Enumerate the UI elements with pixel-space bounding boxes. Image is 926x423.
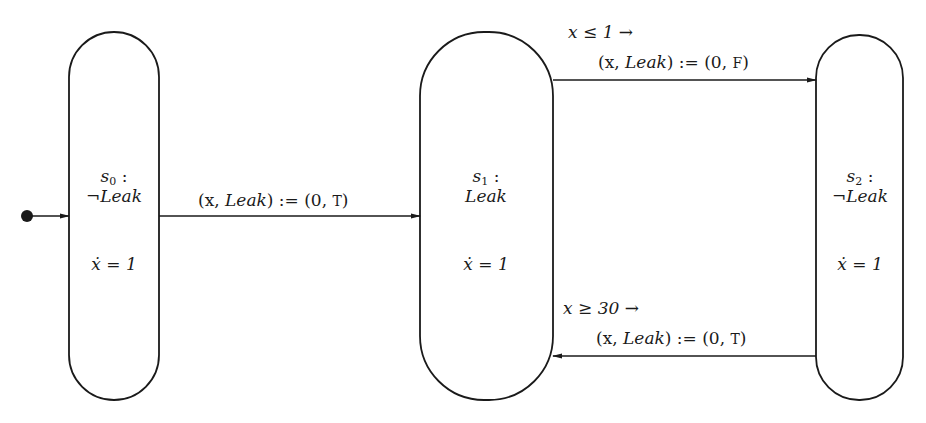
negation-symbol: ¬: [832, 186, 846, 206]
assign-lhs: (x,: [198, 190, 225, 210]
assign-close: ): [742, 52, 749, 72]
assign-var: Leak: [625, 52, 667, 72]
assign-close: ): [342, 190, 349, 210]
transition-s2-s1-guard: x ≥ 30 →: [563, 298, 639, 318]
assign-close: ): [740, 328, 747, 348]
state-name-letter: s: [473, 166, 482, 186]
assign-op: ) := (0,: [667, 52, 733, 72]
state-name-letter: s: [847, 166, 856, 186]
assign-value: T: [333, 193, 342, 209]
invariant-variable: Leak: [846, 186, 888, 206]
state-s0-flow: ẋ = 1: [54, 254, 174, 274]
assign-var: Leak: [225, 190, 267, 210]
transition-s2-s1-assignment: (x, Leak) := (0, T): [596, 328, 746, 349]
state-s2-invariant: ¬Leak: [800, 186, 920, 206]
flow-equation: ẋ = 1: [463, 254, 508, 274]
flow-equation: ẋ = 1: [91, 254, 136, 274]
assign-value: T: [731, 331, 740, 347]
invariant-variable: Leak: [100, 186, 142, 206]
transition-s1-s2-guard: x ≤ 1 →: [568, 22, 633, 42]
assign-lhs: (x,: [596, 328, 623, 348]
invariant-variable: Leak: [465, 186, 507, 206]
flow-equation: ẋ = 1: [837, 254, 882, 274]
assign-var: Leak: [623, 328, 665, 348]
state-name-colon: :: [862, 166, 873, 186]
state-s0-invariant: ¬Leak: [54, 186, 174, 206]
assign-op: ) := (0,: [665, 328, 731, 348]
state-s1-flow: ẋ = 1: [426, 254, 546, 274]
transition-s0-s1-assignment: (x, Leak) := (0, T): [198, 190, 348, 211]
state-s2-box: [816, 35, 903, 400]
assign-lhs: (x,: [598, 52, 625, 72]
assign-value: F: [733, 55, 743, 71]
state-name-letter: s: [101, 166, 110, 186]
negation-symbol: ¬: [86, 186, 100, 206]
state-s1-invariant: Leak: [426, 186, 546, 206]
assign-op: ) := (0,: [267, 190, 333, 210]
state-s0-box: [69, 32, 159, 400]
state-s1-box: [420, 32, 553, 400]
diagram-canvas: [0, 0, 926, 423]
state-name-colon: :: [116, 166, 127, 186]
state-name-colon: :: [488, 166, 499, 186]
transition-s1-s2-assignment: (x, Leak) := (0, F): [598, 52, 749, 73]
state-s2-flow: ẋ = 1: [800, 254, 920, 274]
